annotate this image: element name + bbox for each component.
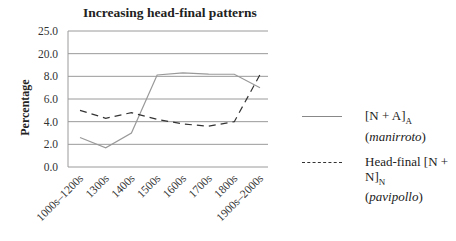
y-tick-label: 0.0: [44, 161, 59, 173]
y-tick-label: 2.0: [44, 138, 59, 150]
legend-label: Head-final [N + N]N: [365, 154, 448, 184]
legend-note: manirroto: [369, 129, 421, 144]
legend-item-n-a: [N + A]A (manirroto): [300, 108, 456, 144]
y-tick-label: 20.0: [38, 48, 58, 60]
y-tick-label: 25.0: [38, 25, 58, 37]
y-tick-label: 4.0: [44, 116, 59, 128]
legend-label: [N + A]A: [365, 108, 412, 123]
solid-line-swatch-icon: [302, 116, 342, 117]
x-tick-label: 1400s: [109, 172, 137, 200]
legend-item-head-final: Head-final [N + N]N (pavipollo): [300, 154, 456, 205]
series-line: [80, 75, 260, 127]
y-tick-label: 6.0: [44, 93, 59, 105]
x-tick-label: 1600s: [160, 172, 188, 200]
y-tick-label: 8.0: [44, 70, 59, 82]
x-tick-label: 1700s: [186, 172, 214, 200]
x-tick-label: 1000s–1200s: [34, 172, 86, 224]
dashed-line-swatch-icon: [302, 162, 342, 163]
series-line: [80, 73, 260, 148]
legend-note: pavipollo: [369, 189, 418, 204]
x-tick-label: 1500s: [135, 172, 163, 200]
x-tick-label: 1300s: [83, 172, 111, 200]
legend: [N + A]A (manirroto) Head-final [N + N]N…: [300, 108, 456, 214]
